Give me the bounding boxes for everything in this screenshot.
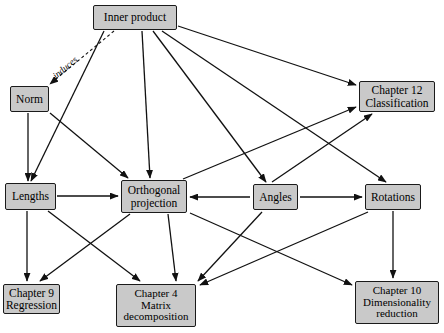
node-chapter10[interactable]: Chapter 10 Dimensionality reduction xyxy=(355,281,439,324)
edge-inner_product-to-chapter12 xyxy=(178,26,356,85)
edge-inner_product-to-orthogonal_projection xyxy=(142,31,150,178)
edge-lengths-to-chapter4 xyxy=(48,211,140,281)
edges-group xyxy=(27,26,393,285)
edge-orthogonal_projection-to-chapter10 xyxy=(190,213,352,285)
node-chapter9[interactable]: Chapter 9 Regression xyxy=(3,284,60,314)
edge-angles-to-chapter12 xyxy=(272,114,372,182)
node-rotations[interactable]: Rotations xyxy=(365,184,421,210)
node-chapter12[interactable]: Chapter 12 Classification xyxy=(359,81,435,112)
edge-inner_product-to-rotations xyxy=(162,31,386,182)
edge-inner_product-to-angles xyxy=(153,31,266,182)
edge-orthogonal_projection-to-chapter9 xyxy=(40,214,130,281)
node-norm[interactable]: Norm xyxy=(10,86,49,112)
edge-angles-to-chapter4 xyxy=(198,212,262,281)
node-inner_product[interactable]: Inner product xyxy=(93,5,177,30)
node-orthogonal_projection[interactable]: Orthogonal projection xyxy=(121,180,187,213)
edge-norm-to-orthogonal_projection xyxy=(50,113,128,178)
node-lengths[interactable]: Lengths xyxy=(5,183,56,210)
edge-orthogonal_projection-to-chapter4 xyxy=(168,214,176,281)
concept-map-diagram: Inner productNormChapter 12 Classificati… xyxy=(0,0,444,333)
node-angles[interactable]: Angles xyxy=(253,184,298,210)
node-chapter4[interactable]: Chapter 4 Matrix decomposition xyxy=(116,284,196,327)
edge-rotations-to-chapter4 xyxy=(200,212,368,285)
